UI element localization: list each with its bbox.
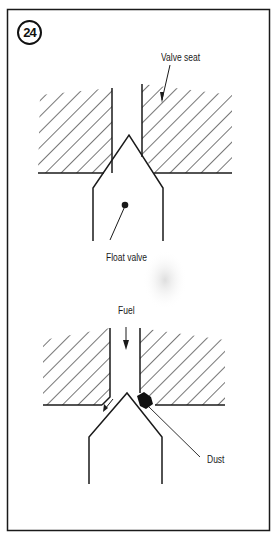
fuel-arrow-head <box>123 340 129 350</box>
valve-seat-label: Valve seat <box>161 52 200 63</box>
bottom-left-body-hatch <box>43 328 110 405</box>
fuel-label: Fuel <box>118 305 135 316</box>
dust-label: Dust <box>207 454 224 465</box>
bottom-diagram <box>43 327 225 484</box>
float-valve-diagram <box>0 0 278 548</box>
top-right-body-hatch <box>142 84 232 173</box>
dust-leader <box>148 406 200 457</box>
top-left-body-hatch <box>38 88 112 173</box>
figure-number: 24 <box>23 25 35 40</box>
leak-arrow-head <box>103 404 108 412</box>
figure-frame <box>8 10 270 531</box>
paper-smudge <box>143 250 187 310</box>
float-valve-leader <box>110 206 125 240</box>
figure-number-badge: 24 <box>17 20 42 45</box>
top-float-valve-dot <box>122 202 129 209</box>
float-valve-label: Float valve <box>106 252 147 263</box>
top-diagram <box>38 65 232 241</box>
bottom-right-body-hatch <box>140 328 225 405</box>
